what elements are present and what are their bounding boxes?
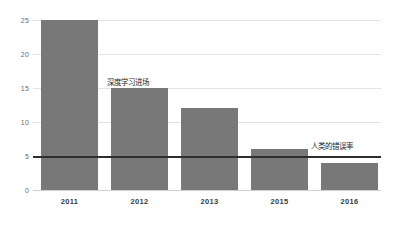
x-tick-label-2013: 2013 <box>181 198 238 206</box>
y-tick-label: 0 <box>7 187 29 194</box>
y-tick-label: 10 <box>7 119 29 126</box>
y-axis: 25 20 15 10 5 0 <box>0 20 29 190</box>
bars-layer <box>33 20 381 190</box>
x-axis: 2011 2012 2013 2015 2016 <box>33 192 381 212</box>
bar-2011[interactable] <box>41 20 98 190</box>
x-tick-label-2016: 2016 <box>321 198 378 206</box>
bar-chart: 25 20 15 10 5 0 2011 2012 2013 2015 2016… <box>0 0 399 225</box>
y-tick-label: 25 <box>7 17 29 24</box>
y-tick-label: 5 <box>7 153 29 160</box>
bar-2013[interactable] <box>181 108 238 190</box>
bar-2016[interactable] <box>321 163 378 190</box>
human-error-reference-line <box>33 156 381 158</box>
y-tick-label: 15 <box>7 85 29 92</box>
gridline-0 <box>33 190 381 191</box>
x-tick-label-2015: 2015 <box>251 198 308 206</box>
bar-2012[interactable] <box>111 88 168 190</box>
y-tick-label: 20 <box>7 51 29 58</box>
x-tick-label-2011: 2011 <box>41 198 98 206</box>
annotation-human-error-rate: 人类的错误率 <box>311 143 353 151</box>
annotation-deep-learning: 深度学习进场 <box>107 79 149 87</box>
x-tick-label-2012: 2012 <box>111 198 168 206</box>
